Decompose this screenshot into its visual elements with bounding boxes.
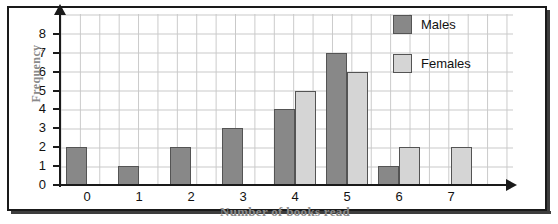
y-tick-label-wrap: 2 bbox=[0, 140, 60, 153]
y-axis-title: Frequency bbox=[29, 14, 44, 134]
x-tick-label: 7 bbox=[436, 190, 466, 204]
x-tick-label: 1 bbox=[124, 190, 154, 204]
legend-swatch-females-icon bbox=[393, 54, 412, 73]
x-tick-label: 5 bbox=[332, 190, 362, 204]
y-tick-label: 2 bbox=[22, 140, 46, 153]
x-axis-line bbox=[59, 184, 508, 186]
x-axis-title: Number of books read bbox=[120, 204, 450, 220]
y-axis-arrow-icon bbox=[54, 4, 66, 15]
bar-chart-figure: 012345678 01234567 Frequency Number of b… bbox=[0, 0, 558, 224]
legend-label-males: Males bbox=[421, 17, 456, 32]
x-axis-arrow-icon bbox=[506, 179, 517, 191]
x-tick-label: 4 bbox=[280, 190, 310, 204]
y-tick-label: 1 bbox=[22, 159, 46, 172]
legend-item-males: Males bbox=[393, 15, 456, 34]
grid-lines bbox=[61, 14, 513, 185]
x-tick-label: 3 bbox=[228, 190, 258, 204]
legend-item-females: Females bbox=[393, 54, 471, 73]
legend-swatch-males-icon bbox=[393, 15, 412, 34]
legend-label-females: Females bbox=[421, 56, 471, 71]
x-tick-label: 2 bbox=[176, 190, 206, 204]
x-tick-label: 0 bbox=[72, 190, 102, 204]
figure-border-shadow-right bbox=[547, 10, 550, 214]
plot-area bbox=[61, 14, 513, 185]
y-tick-label: 0 bbox=[22, 178, 46, 191]
x-tick-label: 6 bbox=[384, 190, 414, 204]
y-tick-label-wrap: 1 bbox=[0, 159, 60, 172]
y-tick-label-wrap: 0 bbox=[0, 178, 60, 191]
